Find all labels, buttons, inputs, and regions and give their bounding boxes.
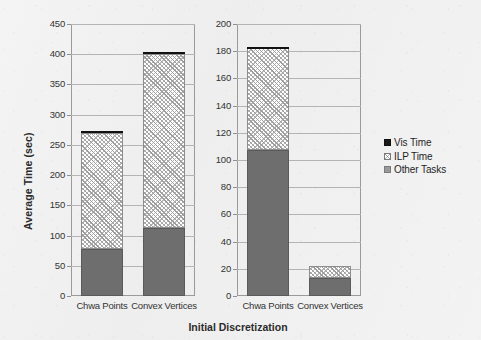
y-axis-tick-label: 450	[31, 18, 65, 29]
y-axis-tick-mark	[233, 78, 237, 79]
y-axis-tick-label: 140	[197, 100, 231, 111]
y-axis-tick-mark	[233, 242, 237, 243]
y-axis-tick-mark	[233, 187, 237, 188]
y-axis-tick-label: 20	[197, 263, 231, 274]
hatched-square-icon	[384, 153, 391, 160]
x-axis-title: Initial Discretization	[148, 321, 328, 333]
y-axis-tick-mark	[233, 296, 237, 297]
bar-segment-vis-time	[81, 131, 123, 133]
y-axis-tick-label: 120	[197, 127, 231, 138]
gray-square-icon	[384, 166, 391, 173]
y-axis-tick-label: 150	[31, 199, 65, 210]
y-axis-tick-mark	[67, 84, 71, 85]
y-axis-tick-label: 40	[197, 236, 231, 247]
bar-segment-other-tasks	[309, 278, 351, 296]
bar-stack	[143, 24, 185, 296]
y-axis-tick-label: 100	[197, 154, 231, 165]
bar-segment-other-tasks	[81, 249, 123, 296]
bar-segment-other-tasks	[247, 150, 289, 296]
y-axis-tick-mark	[233, 160, 237, 161]
y-axis-tick-mark	[233, 214, 237, 215]
y-axis-tick-mark	[67, 54, 71, 55]
y-axis-tick-mark	[233, 24, 237, 25]
x-axis-category-label: Convex Vertices	[288, 300, 372, 311]
y-axis-tick-label: 200	[31, 169, 65, 180]
y-axis-tick-mark	[67, 175, 71, 176]
y-axis-tick-label: 180	[197, 45, 231, 56]
y-axis-tick-mark	[67, 145, 71, 146]
y-axis-tick-mark	[233, 269, 237, 270]
y-axis-tick-label: 400	[31, 48, 65, 59]
y-axis-tick-label: 250	[31, 139, 65, 150]
y-axis-tick-label: 100	[31, 230, 65, 241]
y-axis-tick-mark	[233, 106, 237, 107]
y-axis-tick-mark	[233, 51, 237, 52]
legend: Vis Time ILP Time Other Tasks	[384, 136, 446, 177]
bar-segment-vis-time	[143, 52, 185, 54]
legend-label: ILP Time	[394, 150, 432, 164]
y-axis-tick-mark	[67, 24, 71, 25]
bar-stack	[309, 24, 351, 296]
legend-item-other-tasks: Other Tasks	[384, 163, 446, 177]
legend-item-vis-time: Vis Time	[384, 136, 446, 150]
bar-segment-vis-time	[247, 47, 289, 49]
y-axis-tick-label: 350	[31, 78, 65, 89]
y-axis-tick-label: 160	[197, 72, 231, 83]
y-axis-tick-mark	[67, 205, 71, 206]
solid-black-square-icon	[384, 139, 391, 146]
legend-label: Vis Time	[394, 136, 431, 150]
y-axis-tick-mark	[233, 133, 237, 134]
y-axis-tick-label: 200	[197, 18, 231, 29]
y-axis-tick-mark	[67, 236, 71, 237]
y-axis-tick-label: 60	[197, 208, 231, 219]
y-axis-tick-mark	[67, 296, 71, 297]
y-axis-tick-mark	[67, 266, 71, 267]
bar-segment-ilp-time	[143, 54, 185, 228]
y-axis-tick-label: 50	[31, 260, 65, 271]
y-axis-tick-mark	[67, 115, 71, 116]
y-axis-tick-label: 80	[197, 181, 231, 192]
legend-label: Other Tasks	[394, 163, 446, 177]
bar-segment-ilp-time	[81, 133, 123, 249]
bar-segment-other-tasks	[143, 228, 185, 296]
bar-segment-ilp-time	[247, 48, 289, 150]
bar-stack	[81, 24, 123, 296]
figure-canvas: Average Time (sec) Initial Discretizatio…	[0, 0, 481, 340]
y-axis-tick-label: 300	[31, 109, 65, 120]
x-axis-category-label: Convex Vertices	[122, 300, 206, 311]
legend-item-ilp-time: ILP Time	[384, 150, 446, 164]
bar-stack	[247, 24, 289, 296]
bar-segment-ilp-time	[309, 266, 351, 278]
